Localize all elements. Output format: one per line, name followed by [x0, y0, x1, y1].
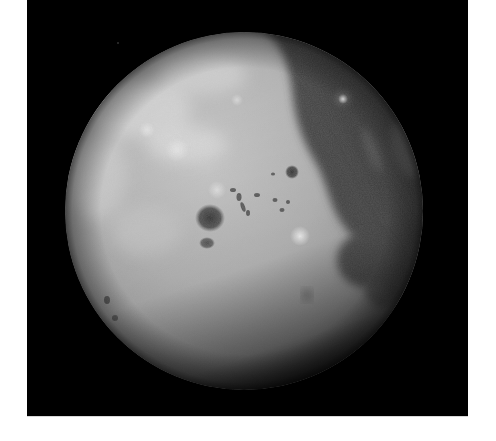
page: Full-disk photograph of the Moon against… — [0, 0, 496, 441]
moon-photograph: Full-disk photograph of the Moon against… — [27, 0, 468, 417]
moon-disk — [65, 20, 447, 392]
moon-illustration — [27, 0, 468, 416]
star-speck — [117, 42, 119, 44]
